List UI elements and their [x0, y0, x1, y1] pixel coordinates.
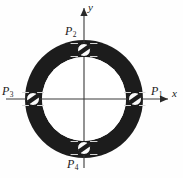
bolt-p4	[77, 142, 91, 155]
x-axis-label: x	[172, 88, 177, 99]
bolt-label-p4-subscript: 4	[75, 163, 79, 172]
bolt-label-p1-subscript: 1	[159, 90, 163, 99]
bolt-p3	[26, 93, 40, 106]
bolt-label-p2: P2	[65, 25, 76, 39]
annular-flange-bolt-diagram: P1 P2 P3 P4 x y	[0, 0, 183, 178]
bolt-p2	[77, 44, 91, 57]
bolt-label-p1: P1	[151, 85, 162, 99]
y-axis-label: y	[88, 2, 93, 13]
bolt-p1	[128, 93, 142, 106]
bolt-label-p4: P4	[67, 158, 78, 172]
bolt-label-p3: P3	[2, 85, 13, 99]
bolt-label-p3-subscript: 3	[10, 90, 14, 99]
bolt-label-p2-subscript: 2	[73, 30, 77, 39]
